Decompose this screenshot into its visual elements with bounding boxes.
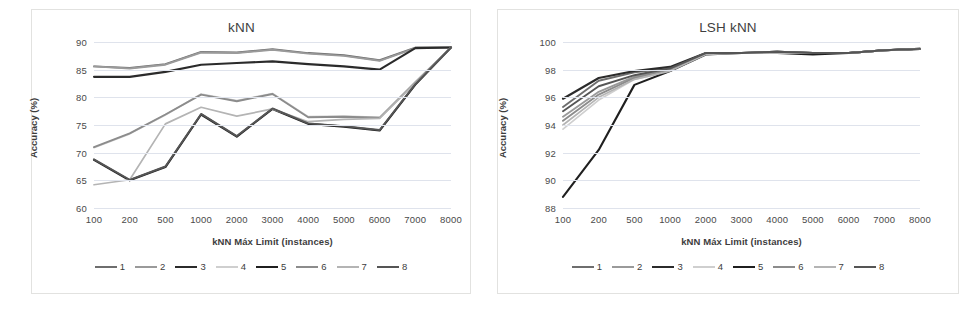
legend-label: 6 [798, 262, 803, 272]
y-axis-tick-label: 98 [545, 64, 556, 75]
legend-line-icon [572, 266, 594, 268]
legend-label: 3 [200, 262, 205, 272]
x-axis-tick-label: 500 [626, 214, 642, 225]
series-line [563, 49, 920, 117]
legend-line-icon [216, 266, 238, 268]
x-axis-tick-label: 4000 [297, 214, 319, 225]
x-axis-tick-label: 1000 [659, 214, 681, 225]
legend-item[interactable]: 5 [733, 262, 763, 272]
legend-line-icon [693, 266, 715, 268]
legend-label: 5 [758, 262, 763, 272]
x-axis-tick-label: 200 [590, 214, 606, 225]
y-axis-tick-label: 60 [76, 203, 87, 214]
gridline [563, 208, 920, 209]
legend-line-icon [854, 266, 876, 268]
legend-item[interactable]: 7 [337, 262, 367, 272]
chart-panel-lsh-knn: LSH kNN Accuracy (%) 8890929496981001002… [483, 0, 977, 309]
legend-item[interactable]: 6 [773, 262, 803, 272]
legend-item[interactable]: 8 [377, 262, 407, 272]
chart-panel-knn: kNN Accuracy (%) 60657075808590100200500… [0, 0, 483, 309]
legend-label: 2 [637, 262, 642, 272]
legend-label: 7 [839, 262, 844, 272]
y-axis-tick-label: 92 [545, 147, 556, 158]
legend-label: 2 [160, 262, 165, 272]
legend-lsh-knn: 12345678 [497, 262, 959, 272]
x-axis-tick-label: 100 [555, 214, 571, 225]
x-axis-tick-label: 4000 [766, 214, 788, 225]
legend-label: 4 [241, 262, 246, 272]
legend-line-icon [95, 266, 117, 268]
y-axis-tick-label: 100 [540, 37, 556, 48]
legend-line-icon [337, 266, 359, 268]
series-line [94, 48, 451, 77]
x-axis-tick-label: 7000 [404, 214, 426, 225]
legend-item[interactable]: 6 [296, 262, 326, 272]
legend-line-icon [135, 266, 157, 268]
legend-item[interactable]: 2 [135, 262, 165, 272]
legend-item[interactable]: 8 [854, 262, 884, 272]
x-axis-title-lsh-knn: kNN Máx Limit (instances) [563, 236, 920, 247]
legend-line-icon [377, 266, 399, 268]
legend-line-icon [175, 266, 197, 268]
legend-item[interactable]: 3 [652, 262, 682, 272]
x-axis-tick-label: 6000 [369, 214, 391, 225]
figure-container: kNN Accuracy (%) 60657075808590100200500… [0, 0, 977, 309]
legend-item[interactable]: 2 [612, 262, 642, 272]
series-line [563, 49, 920, 197]
y-axis-title-lsh-knn: Accuracy (%) [497, 98, 508, 158]
plot-area-knn: 6065707580859010020050010002000300040005… [94, 42, 451, 208]
legend-item[interactable]: 4 [693, 262, 723, 272]
legend-item[interactable]: 4 [216, 262, 246, 272]
plot-area-lsh-knn: 8890929496981001002005001000200030004000… [563, 42, 920, 208]
x-axis-tick-label: 500 [157, 214, 173, 225]
gridline [563, 153, 920, 154]
y-axis-tick-label: 88 [545, 203, 556, 214]
y-axis-tick-label: 85 [76, 64, 87, 75]
legend-label: 1 [120, 262, 125, 272]
gridline [94, 97, 451, 98]
legend-line-icon [256, 266, 278, 268]
legend-line-icon [773, 266, 795, 268]
legend-label: 8 [402, 262, 407, 272]
x-axis-tick-label: 5000 [333, 214, 355, 225]
legend-label: 4 [718, 262, 723, 272]
gridline [94, 125, 451, 126]
chart-title-lsh-knn: LSH kNN [497, 20, 959, 35]
x-axis-tick-label: 7000 [873, 214, 895, 225]
x-axis-tick-label: 5000 [802, 214, 824, 225]
x-axis-tick-label: 1000 [190, 214, 212, 225]
x-axis-tick-label: 8000 [909, 214, 931, 225]
y-axis-tick-label: 90 [545, 175, 556, 186]
y-axis-tick-label: 65 [76, 175, 87, 186]
y-axis-tick-label: 96 [545, 92, 556, 103]
gridline [94, 70, 451, 71]
gridline [94, 153, 451, 154]
legend-line-icon [652, 266, 674, 268]
legend-label: 1 [597, 262, 602, 272]
gridline [563, 42, 920, 43]
x-axis-tick-label: 100 [86, 214, 102, 225]
plot-wrap-lsh-knn: Accuracy (%) 889092949698100100200500100… [516, 42, 926, 214]
plot-wrap-knn: Accuracy (%) 606570758085901002005001000… [47, 42, 457, 214]
y-axis-tick-label: 90 [76, 37, 87, 48]
x-axis-tick-label: 6000 [838, 214, 860, 225]
x-axis-tick-label: 3000 [262, 214, 284, 225]
x-axis-tick-label: 200 [121, 214, 137, 225]
x-axis-tick-label: 3000 [731, 214, 753, 225]
legend-label: 8 [879, 262, 884, 272]
legend-item[interactable]: 7 [814, 262, 844, 272]
x-axis-tick-label: 2000 [695, 214, 717, 225]
legend-item[interactable]: 5 [256, 262, 286, 272]
x-axis-title-knn: kNN Máx Limit (instances) [94, 236, 451, 247]
legend-item[interactable]: 1 [95, 262, 125, 272]
x-axis-tick-label: 2000 [226, 214, 248, 225]
series-line [563, 49, 920, 99]
gridline [563, 70, 920, 71]
legend-line-icon [733, 266, 755, 268]
legend-label: 6 [321, 262, 326, 272]
gridline [563, 125, 920, 126]
legend-item[interactable]: 1 [572, 262, 602, 272]
gridline [563, 97, 920, 98]
y-axis-tick-label: 94 [545, 120, 556, 131]
legend-item[interactable]: 3 [175, 262, 205, 272]
